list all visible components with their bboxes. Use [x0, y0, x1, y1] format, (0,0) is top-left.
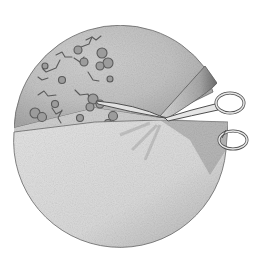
disc-lower-flap [14, 120, 228, 247]
disc-scissors-drawing [0, 0, 263, 253]
illustration [0, 0, 263, 253]
